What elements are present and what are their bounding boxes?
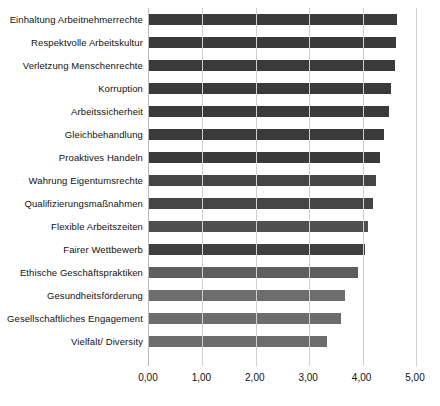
gridline-5-00 [416,8,417,366]
category-label: Ethische Geschäftspraktiken [20,261,143,284]
x-tick-label: 2,00 [245,372,264,383]
bar-row [149,100,415,123]
bar [149,175,376,186]
bar-row [149,215,415,238]
plot-area [148,8,415,366]
bar [149,244,365,255]
category-label: Gesundheitsförderung [47,284,143,307]
category-label: Proaktives Handeln [59,146,143,169]
bar-row [149,192,415,215]
bar-row [149,31,415,54]
x-tick-label: 3,00 [298,372,317,383]
category-label: Gleichbehandlung [65,123,143,146]
x-tick-label: 5,00 [405,372,424,383]
bar [149,60,395,71]
value-axis: 0,001,002,003,004,005,00 [148,366,415,396]
category-label: Flexible Arbeitszeiten [51,215,143,238]
category-label: Respektvolle Arbeitskultur [31,31,143,54]
bar [149,267,358,278]
bar-row [149,238,415,261]
bar-row [149,261,415,284]
category-axis-labels: Einhaltung ArbeitnehmerrechteRespektvoll… [0,8,143,366]
x-tick-label: 1,00 [192,372,211,383]
category-label: Korruption [98,77,143,100]
gridline-4-00 [363,8,364,366]
bar-row [149,8,415,31]
category-label: Wahrung Eigentumsrechte [29,169,143,192]
bar-row [149,284,415,307]
category-label: Arbeitssicherheit [71,100,143,123]
bar [149,152,380,163]
gridline-3-00 [309,8,310,366]
category-label: Fairer Wettbewerb [63,238,143,261]
category-label: Qualifizierungsmaßnahmen [24,192,143,215]
bar-row [149,169,415,192]
x-tick-label: 0,00 [138,372,157,383]
bar [149,14,397,25]
bar-chart: Einhaltung ArbeitnehmerrechteRespektvoll… [0,0,440,406]
gridline-2-00 [256,8,257,366]
bar [149,83,391,94]
bar-row [149,54,415,77]
x-tick-label: 4,00 [352,372,371,383]
bar [149,336,327,347]
bar-row [149,307,415,330]
category-label: Verletzung Menschenrechte [23,54,143,77]
bar-row [149,123,415,146]
category-label: Vielfalt/ Diversity [71,330,143,353]
gridline-1-00 [202,8,203,366]
bar [149,106,389,117]
bar [149,221,368,232]
category-label: Gesellschaftliches Engagement [7,307,143,330]
category-label: Einhaltung Arbeitnehmerrechte [10,8,143,31]
bar-row [149,77,415,100]
bar-row [149,146,415,169]
bar [149,198,373,209]
bar-rows [149,8,415,366]
bar-row [149,330,415,353]
bar [149,129,384,140]
bar [149,37,396,48]
bar [149,313,341,324]
bar [149,290,345,301]
